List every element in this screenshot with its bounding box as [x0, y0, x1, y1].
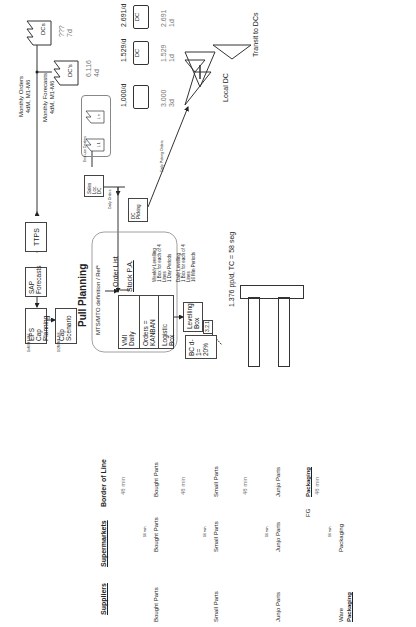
takt-label: 1.376 pp/d, TC = 58 seg: [228, 232, 236, 307]
cap-planning-label: Cap Planning: [35, 311, 49, 341]
dcs-inventory: ??? 7d: [58, 25, 74, 37]
kanban-card-label: 3.2.1: [204, 321, 210, 332]
line-head: [240, 285, 304, 299]
bol-label: Junjo Parts: [275, 467, 282, 497]
box-label: Box: [168, 298, 175, 346]
dcs2-label: DC's: [67, 64, 74, 77]
transit-to-dcs-label: Transit to DCs: [252, 13, 260, 57]
supermarket-label: Junjo Parts: [275, 522, 282, 552]
dc-picking-box: DC Picking: [128, 198, 148, 222]
customer-ln: L n: [85, 102, 105, 124]
dcs2-factory: DC's: [52, 47, 80, 87]
forecasts-label: Forecasts: [35, 270, 42, 294]
days: 3d: [168, 89, 176, 107]
loop-cycle: 16 min: [143, 526, 147, 537]
bol-label: Small Parts: [213, 466, 220, 497]
ttps-box: TTPS: [25, 222, 47, 252]
shipment-inv-1: 3.000 3d: [160, 89, 176, 107]
loop-cycle: 16 min: [265, 526, 269, 537]
ttps-label: TTPS: [33, 228, 40, 246]
daily-levelling-note: Daily Levelling 1 Box for each of 4 Line…: [176, 244, 196, 282]
box-label: Box: [193, 305, 200, 329]
supplier-label: Ware: [338, 608, 345, 622]
truck-label: DC: [134, 49, 140, 58]
factory-icon: [52, 47, 80, 87]
loop-packaging: Ware Packaging Packaging Packaging 48 mi…: [300, 357, 355, 627]
monthly-orders-label: Monthly Orders 4dM, M1-M6: [18, 76, 32, 117]
loc-dc-label: Loc. DC: [92, 178, 102, 194]
days: 1d: [168, 9, 176, 27]
l1-label: L 1: [97, 142, 101, 147]
dcs-label: DCs: [40, 23, 47, 35]
logistic-label: Logistic: [161, 298, 168, 346]
vmi-daily: VMI Daily: [119, 296, 140, 348]
bc-label: BC d-1=: [188, 338, 202, 356]
supplier-label: Bought Parts: [153, 587, 160, 622]
sap-forecasts-box: SAP Forecasts: [25, 267, 47, 297]
loop-log-bought-parts: Bought Parts Bought Parts Bought Parts 4…: [115, 357, 165, 627]
note-line: 1 Day Periods: [167, 244, 172, 282]
sap-label: SAP: [28, 270, 35, 294]
bol-label: Packaging: [305, 467, 312, 497]
suppliers-header: Suppliers: [100, 583, 108, 615]
local-dc-label: Local DC: [222, 73, 230, 102]
loop-kanban-small-parts: Small Parts Small Parts Small Parts 48 m…: [175, 357, 225, 627]
order-list-label: Order List: [112, 256, 120, 287]
supplier-label: Small Parts: [213, 591, 220, 622]
assembly-line: [240, 287, 360, 367]
planning-stack: VMI Daily Orders = KANBAN Logistic Box: [118, 295, 174, 349]
truck-icon: DC: [133, 41, 149, 65]
loop-time: 48 min: [242, 477, 249, 495]
factory-icon: [25, 7, 53, 47]
logistic-box: Logistic Box: [159, 296, 177, 348]
factory-icon: [85, 130, 105, 152]
loop-cycle: 16 min: [203, 526, 207, 537]
bc-box: BC d-1= 20%: [185, 335, 217, 359]
loop-cycle: 16 min: [328, 526, 332, 537]
truck-icon: [133, 85, 149, 109]
border-of-line-header: Border of Line: [100, 459, 108, 507]
note-line: 16 Min Periods: [191, 244, 196, 282]
shipment-rate-3: 2.691/d: [120, 4, 128, 27]
supplier-label: Junjo Parts: [275, 592, 282, 622]
monthly-orders-text: Monthly Orders: [18, 76, 25, 117]
shipment-rate-2: 1.529/d: [120, 39, 128, 62]
fg-label: FG: [305, 509, 312, 517]
monthly-orders-detail: 4dM, M1-M6: [25, 76, 32, 117]
mts-mto-label: MTS/MTO definition / Ref*: [95, 265, 102, 335]
picking-label: Picking: [136, 201, 141, 219]
daily-picking-orders-label: Daily Picking Orders: [160, 140, 164, 172]
qty: 1.529: [160, 44, 168, 62]
supermarkets-header: Supermarkets: [100, 520, 108, 567]
dcs-qty: ???: [58, 25, 66, 37]
stock-pa-label: Stock P.A.: [126, 260, 134, 292]
dcs-factory: DCs: [25, 7, 53, 47]
kanban-label: KANBAN: [149, 298, 156, 346]
supermarket-label: Bought Parts: [153, 517, 160, 552]
bc-percent: 20%: [202, 338, 209, 356]
dcs2-qty: 6.116: [85, 60, 93, 77]
loop-time: 48 min: [180, 477, 187, 495]
eps-note: 1xM M1-M6: [27, 334, 31, 352]
bol-label: Bought Parts: [153, 462, 160, 497]
scenario-label: Scenario: [65, 311, 72, 341]
weekly-levelling-note: Weekly Levelling 1 Box for each of 4 Lin…: [152, 244, 172, 282]
qty: 3.000: [160, 89, 168, 107]
kanban-card: 3.2.1: [203, 320, 213, 334]
days: 1d: [168, 44, 176, 62]
loop-time: 48 min: [314, 477, 321, 495]
truck-label: DC: [134, 13, 140, 22]
daily-orders-label: Daily Orders: [108, 190, 112, 209]
factory-icon: [85, 102, 105, 124]
shipment-inv-3: 2.691 1d: [160, 9, 176, 27]
monthly-forecasts-text: Monthly Forecasts: [42, 73, 49, 122]
vmi-label: VMI: [121, 298, 128, 346]
value-stream-map: Pull Planning Monthly Orders 4dM, M1-M6 …: [0, 0, 416, 627]
ln-label: L n: [97, 114, 101, 119]
orders-label: Orders =: [142, 298, 149, 346]
daily-label: Daily: [128, 298, 135, 346]
supermarket-label: Small Parts: [213, 521, 220, 552]
dcs-days: 7d: [66, 25, 74, 37]
levelling-label: Levelling: [186, 305, 193, 329]
shipment-rate-1: 1,000/d: [120, 84, 128, 107]
